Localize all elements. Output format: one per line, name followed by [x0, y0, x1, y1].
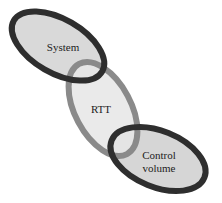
label-system: System [47, 41, 80, 53]
diagram-canvas: System RTT Control volume [0, 0, 222, 203]
label-rtt: RTT [91, 103, 111, 115]
label-volume: volume [143, 162, 176, 174]
label-control: Control [142, 149, 176, 161]
